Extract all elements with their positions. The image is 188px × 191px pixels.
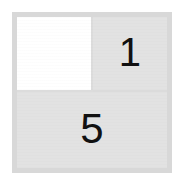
grid-frame: 1 5 bbox=[12, 12, 172, 173]
grid-cell-bottom: 5 bbox=[17, 92, 167, 168]
grid-cell-top-right: 1 bbox=[93, 17, 167, 92]
grid-cell-top-right-label: 1 bbox=[119, 32, 141, 72]
grid-cell-top-left bbox=[17, 17, 93, 92]
figure-canvas: 1 5 bbox=[0, 0, 188, 191]
grid-inner: 1 5 bbox=[17, 17, 167, 168]
grid-cell-bottom-label: 5 bbox=[80, 108, 103, 150]
